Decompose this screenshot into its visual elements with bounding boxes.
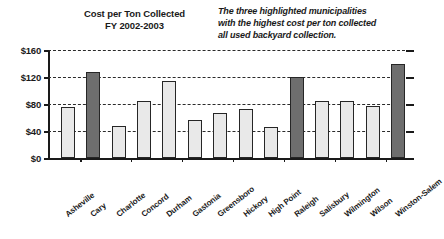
bar: [137, 101, 151, 158]
gridline: [48, 131, 410, 132]
x-axis-tick: [284, 158, 285, 162]
y-axis-label: $80: [26, 99, 41, 110]
chart-annotation-line-3: all used backyard collection.: [218, 30, 428, 42]
x-axis-tick: [182, 158, 183, 162]
y-axis-label: $160: [21, 45, 41, 56]
x-axis-category-label: Cary: [89, 201, 108, 219]
chart-title-line-1: Cost per Ton Collected: [52, 8, 217, 20]
y-axis-tick-right: [406, 50, 414, 52]
x-axis-tick: [131, 158, 132, 162]
bar: [188, 120, 202, 158]
chart-annotation: The three highlighted municipalities wit…: [218, 6, 428, 41]
chart-annotation-line-2: with the highest cost per ton collected: [218, 18, 428, 30]
bar: [61, 107, 75, 158]
bar: [162, 81, 176, 158]
x-axis-tick: [335, 158, 336, 162]
y-axis-label: $0: [31, 153, 41, 164]
x-axis-line: [48, 158, 411, 160]
bar: [366, 106, 380, 158]
gridline: [48, 104, 410, 105]
chart-annotation-line-1: The three highlighted municipalities: [218, 6, 428, 18]
y-axis-tick-right: [406, 77, 414, 79]
bar: [264, 127, 278, 158]
bar: [391, 64, 405, 158]
y-axis-label: $40: [26, 126, 41, 137]
gridline: [48, 77, 410, 78]
bar: [213, 113, 227, 158]
y-axis-label: $120: [21, 72, 41, 83]
y-axis-tick: [44, 131, 49, 133]
x-axis-tick: [233, 158, 234, 162]
y-axis-tick-right: [406, 131, 414, 133]
chart-title-line-2: FY 2002-2003: [52, 20, 217, 32]
bar: [315, 101, 329, 158]
bar: [112, 126, 126, 158]
bar: [290, 77, 304, 158]
x-axis-tick: [80, 158, 81, 162]
y-axis-tick: [44, 104, 49, 106]
gridline: [48, 50, 410, 51]
y-axis-tick-right: [406, 104, 414, 106]
plot-area: $0$40$80$120$160 AshevilleCaryCharlotteC…: [48, 50, 410, 158]
y-axis-tick: [44, 158, 49, 160]
y-axis-tick-right: [406, 158, 414, 160]
chart-title: Cost per Ton Collected FY 2002-2003: [52, 8, 217, 31]
bar: [340, 101, 354, 158]
y-axis-tick: [44, 50, 49, 52]
bar: [239, 109, 253, 158]
bar: [86, 72, 100, 158]
y-axis-tick: [44, 77, 49, 79]
x-axis-category-label: Winston-Salem: [394, 177, 444, 219]
x-axis-tick: [386, 158, 387, 162]
